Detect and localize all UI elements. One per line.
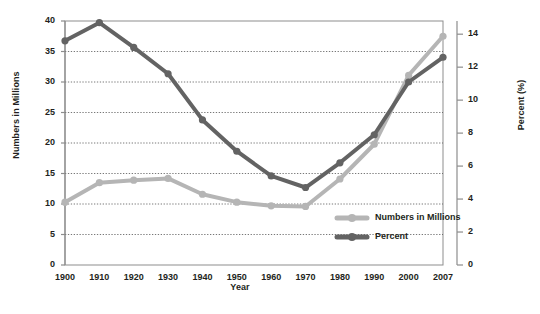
y-axis-left-tick-label: 40 xyxy=(29,15,55,25)
data-point-marker xyxy=(164,175,171,182)
data-point-marker xyxy=(268,202,275,209)
data-point-marker xyxy=(405,78,412,85)
y-axis-left-tick-label: 15 xyxy=(29,168,55,178)
data-point-marker xyxy=(302,184,309,191)
data-point-marker xyxy=(233,199,240,206)
data-point-marker xyxy=(96,179,103,186)
y-axis-left-tick-label: 5 xyxy=(29,229,55,239)
data-point-marker xyxy=(439,33,446,40)
data-point-marker xyxy=(336,175,343,182)
y-axis-right-tick-label: 0 xyxy=(468,259,494,269)
y-axis-right-tick-label: 6 xyxy=(468,160,494,170)
data-point-marker xyxy=(371,141,378,148)
chart-container: Numbers in Millions Percent (%) Year 051… xyxy=(0,0,540,314)
data-point-marker xyxy=(130,44,137,51)
y-axis-right-tick-label: 8 xyxy=(468,127,494,137)
y-axis-right-tick-label: 12 xyxy=(468,61,494,71)
data-point-marker xyxy=(61,37,68,44)
data-point-marker xyxy=(96,19,103,26)
data-point-marker xyxy=(336,159,343,166)
y-axis-right-tick-label: 2 xyxy=(468,226,494,236)
legend-swatch-marker xyxy=(348,214,356,222)
data-point-marker xyxy=(268,172,275,179)
y-axis-left-tick-label: 30 xyxy=(29,76,55,86)
legend-label: Percent xyxy=(375,231,408,241)
y-axis-left-tick-label: 20 xyxy=(29,137,55,147)
y-axis-right-tick-label: 4 xyxy=(468,193,494,203)
data-point-marker xyxy=(302,203,309,210)
y-axis-left-tick-label: 35 xyxy=(29,46,55,56)
y-axis-right-tick-label: 10 xyxy=(468,94,494,104)
y-axis-left-tick-label: 0 xyxy=(29,259,55,269)
data-point-marker xyxy=(61,199,68,206)
legend-swatch-marker xyxy=(348,233,356,241)
data-point-marker xyxy=(164,70,171,77)
data-point-marker xyxy=(439,54,446,61)
data-point-marker xyxy=(233,148,240,155)
y-axis-left-tick-label: 10 xyxy=(29,198,55,208)
data-point-marker xyxy=(371,131,378,138)
data-point-marker xyxy=(199,116,206,123)
data-point-marker xyxy=(130,177,137,184)
data-point-marker xyxy=(199,191,206,198)
legend-label: Numbers in Millions xyxy=(375,212,461,222)
y-axis-right-tick-label: 14 xyxy=(468,28,494,38)
chart-plot-area xyxy=(0,0,540,314)
x-axis-tick-label: 2007 xyxy=(423,272,463,282)
y-axis-left-tick-label: 25 xyxy=(29,107,55,117)
